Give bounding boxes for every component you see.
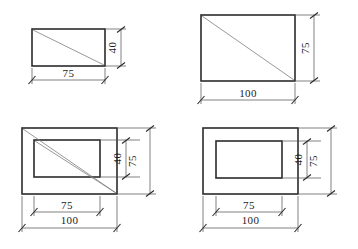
dimension-label-height-inner: 40	[292, 154, 304, 166]
dimension-label-width: 75	[63, 67, 75, 79]
figure-top-left: 40 75	[29, 27, 127, 85]
dimension-label-height: 75	[299, 42, 311, 54]
inner-rectangle	[216, 141, 282, 178]
technical-drawing-canvas: 40 75 75 100	[0, 0, 358, 249]
dimension-label-height-inner: 40	[111, 153, 123, 165]
figure-bottom-left: 40 75 75 100	[19, 126, 157, 233]
dimension-label-width-outer: 100	[61, 214, 79, 226]
dimension-label-height-outer: 75	[126, 155, 138, 167]
drawing-sheet: 40 75 75 100	[0, 0, 358, 249]
dimension-label-width: 100	[239, 87, 257, 99]
figure-bottom-right: 40 75 75 100	[200, 126, 338, 233]
figure-top-right: 75 100	[198, 13, 321, 105]
dimension-label-height-outer: 75	[307, 155, 319, 167]
inner-rectangle	[34, 140, 100, 177]
dimension-label-height: 40	[106, 42, 118, 54]
dimension-label-width-outer: 100	[242, 214, 260, 226]
dimension-label-width-inner: 75	[243, 199, 255, 211]
dimension-label-width-inner: 75	[61, 199, 73, 211]
